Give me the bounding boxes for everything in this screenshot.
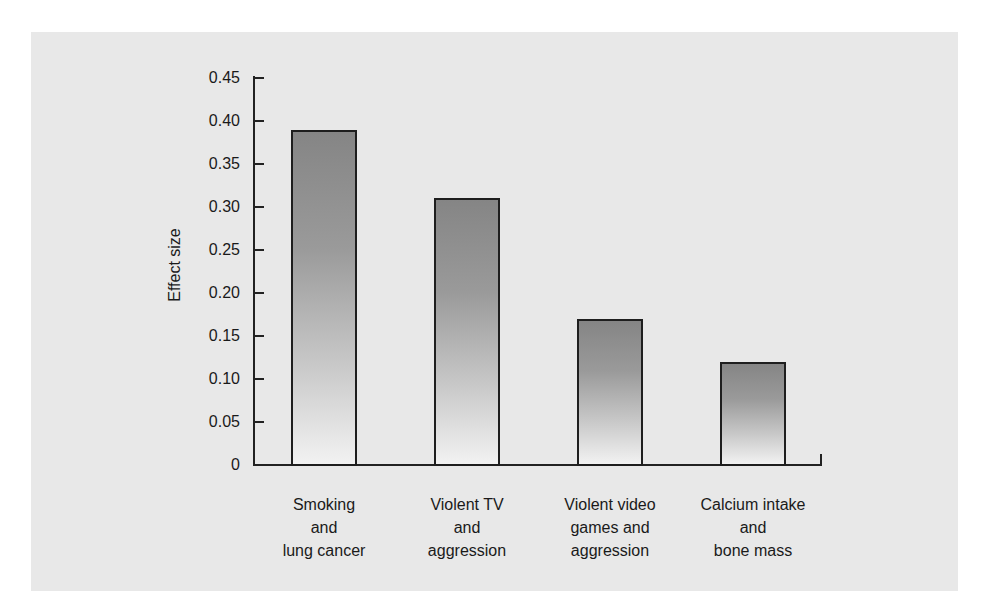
y-tick-label: 0.40	[180, 112, 240, 130]
bar	[434, 198, 500, 466]
y-tick-label: 0	[180, 456, 240, 474]
y-axis-line	[253, 76, 255, 466]
x-category-label: Violent video games and aggression	[535, 493, 685, 562]
y-tick-label: 0.20	[180, 284, 240, 302]
x-category-label: Violent TV and aggression	[392, 493, 542, 562]
y-tick-label: 0.05	[180, 413, 240, 431]
y-tick-label: 0.30	[180, 198, 240, 216]
bar	[577, 319, 643, 466]
x-category-label: Calcium intake and bone mass	[678, 493, 828, 562]
y-tick-label: 0.35	[180, 155, 240, 173]
y-tick-label: 0.10	[180, 370, 240, 388]
y-tick-label: 0.25	[180, 241, 240, 259]
y-tick-label: 0.15	[180, 327, 240, 345]
x-category-label: Smoking and lung cancer	[249, 493, 399, 562]
y-tick-label: 0.45	[180, 69, 240, 87]
x-axis-end-tick	[820, 454, 822, 466]
bar	[720, 362, 786, 466]
bar	[291, 130, 357, 466]
